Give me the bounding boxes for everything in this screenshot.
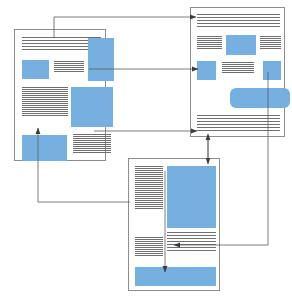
right-column-lines-lower — [167, 232, 216, 251]
image-right-small — [263, 61, 281, 80]
left-column-lines-lower — [135, 237, 163, 256]
column-lines-upper — [54, 61, 84, 72]
page-thumbnail-right[interactable] — [190, 7, 285, 137]
footer-lines — [197, 115, 280, 131]
page-thumbnail-bottom[interactable] — [128, 158, 220, 291]
image-banner — [230, 88, 290, 108]
page-thumbnail-left[interactable] — [14, 29, 106, 161]
image-bottom-left — [22, 135, 67, 161]
column-lines-left — [22, 87, 68, 116]
image-left-small — [197, 61, 216, 80]
column-lines-left-upper — [197, 36, 222, 49]
page-right-content — [191, 8, 284, 136]
image-main — [167, 166, 216, 228]
image-left-small — [22, 60, 49, 79]
column-lines-right-upper — [260, 36, 281, 49]
column-lines-bottom-right — [73, 134, 111, 153]
image-footer — [135, 267, 216, 286]
diagram-canvas — [0, 0, 292, 302]
page-left-content — [15, 30, 105, 160]
column-lines-center — [222, 62, 254, 73]
left-column-lines — [135, 166, 163, 209]
image-center — [71, 87, 113, 127]
image-top-center — [226, 35, 256, 55]
page-bottom-content — [129, 159, 219, 290]
headline-lines — [197, 14, 280, 27]
image-top-right — [88, 38, 114, 81]
